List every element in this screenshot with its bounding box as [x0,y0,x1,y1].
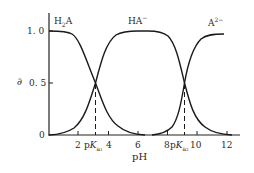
curve-a2 [152,34,224,135]
h2a-a: A [66,16,73,26]
pka2-k: K [176,140,183,150]
pka2-subsub: 2 [186,147,189,152]
a2-sup: 2− [215,16,224,23]
x-tick-label-pka1: pKa1 [84,140,103,150]
y-axis-title: ∂ [17,77,22,87]
x-axis-title: pH [132,152,147,162]
ha-main: HA [128,16,142,26]
x-tick-label-6: 6 [135,140,141,150]
h2a-h: H [54,16,62,26]
x-tick-label-12: 12 [221,140,232,150]
y-tick-label-1: 1. 0 [27,26,44,36]
ha-sup: − [142,14,147,21]
pka1-subsub: 1 [100,147,103,152]
series-label-ha: HA− [128,16,147,26]
pka1-k: K [90,140,97,150]
x-tick-label-pka2: pKa2 [170,140,189,150]
x-tick-label-8: 8 [164,140,170,150]
series-label-a2: A2− [208,18,223,28]
curve-ha [49,31,232,135]
x-tick-label-2: 2 [75,140,81,150]
y-tick-label-05: 0. 5 [29,78,46,88]
series-label-h2a: H2A [54,16,72,26]
x-tick-label-10: 10 [190,140,201,150]
x-tick-label-4: 4 [106,140,112,150]
y-tick-label-0: 0 [39,130,45,140]
curve-h2a [49,31,145,135]
